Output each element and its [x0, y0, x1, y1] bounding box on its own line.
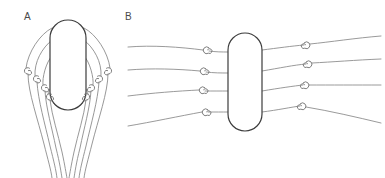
panel-a-capsule — [50, 20, 86, 110]
panel-b-right-fibers — [262, 36, 381, 123]
panel-b: B — [125, 11, 381, 131]
loop-b-left-1 — [203, 47, 212, 54]
panel-a: A — [24, 11, 112, 178]
figure-container: A — [0, 0, 385, 178]
panel-a-label: A — [24, 11, 31, 22]
loop-b-left-3 — [199, 87, 208, 94]
panel-b-capsule — [228, 33, 262, 131]
loop-b-left-2 — [200, 68, 209, 75]
panel-b-right-loops — [297, 42, 312, 110]
panel-b-left-fibers — [128, 46, 228, 126]
panel-b-left-loops — [199, 47, 212, 116]
scientific-figure: A — [0, 0, 385, 178]
panel-b-label: B — [125, 11, 132, 22]
